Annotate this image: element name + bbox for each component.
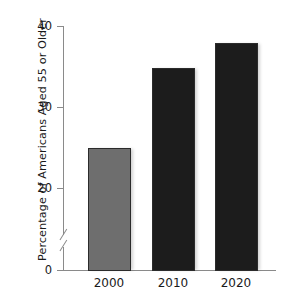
bar-2000	[88, 148, 131, 271]
x-tick-label-2020: 2020	[201, 276, 271, 290]
bar-2010	[152, 68, 195, 271]
x-tick-label-2000: 2000	[74, 276, 144, 290]
x-tick-label-2010: 2010	[138, 276, 208, 290]
bar-2020	[215, 43, 258, 271]
bar-chart: Percentage of Americans Aged 55 or Older…	[0, 0, 289, 305]
plot-area: 2000 2010 2020	[0, 0, 289, 305]
